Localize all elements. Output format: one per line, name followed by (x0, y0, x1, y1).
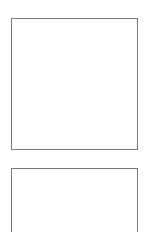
content-panel-bottom (11, 168, 138, 232)
content-panel-top (11, 18, 138, 150)
page (0, 0, 148, 232)
